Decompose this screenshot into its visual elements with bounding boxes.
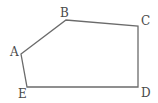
vertex-label-e: E — [18, 87, 27, 101]
vertex-label-a: A — [9, 45, 19, 59]
pentagon-figure: A B C D E — [0, 0, 158, 103]
vertex-label-c: C — [141, 14, 150, 28]
vertex-label-d: D — [141, 86, 151, 100]
pentagon-abcde — [21, 20, 138, 87]
vertex-label-b: B — [60, 6, 69, 20]
